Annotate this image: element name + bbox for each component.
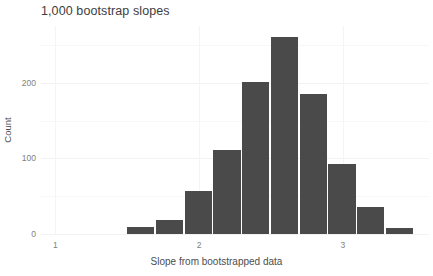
y-tick-label: 100 [22, 153, 36, 163]
y-axis-title: Count [2, 117, 13, 142]
histogram-bar [127, 227, 154, 234]
histogram-bar [242, 82, 269, 234]
histogram-bar [357, 207, 384, 234]
chart-title: 1,000 bootstrap slopes [41, 4, 170, 18]
y-gridline-minor [41, 45, 429, 46]
x-gridline [55, 26, 56, 234]
plot-area [41, 26, 429, 234]
histogram-bar [213, 150, 240, 234]
histogram-bar [386, 228, 413, 234]
x-tick-label: 2 [197, 240, 202, 250]
y-gridline [41, 83, 429, 84]
histogram-bar [185, 191, 212, 234]
x-tick-label: 3 [340, 240, 345, 250]
histogram-bar [271, 37, 298, 234]
x-axis-title: Slope from bootstrapped data [0, 256, 433, 267]
y-gridline [41, 234, 429, 235]
y-tick-label: 0 [31, 229, 36, 239]
y-gridline-minor [41, 121, 429, 122]
histogram-bar [328, 164, 355, 234]
x-axis-ticks: 123 [41, 240, 429, 254]
chart-figure: 1,000 bootstrap slopes 0100200 123 Count… [0, 0, 433, 276]
y-tick-label: 200 [22, 78, 36, 88]
histogram-bar [300, 94, 327, 234]
x-tick-label: 1 [53, 240, 58, 250]
histogram-bar [156, 220, 183, 234]
